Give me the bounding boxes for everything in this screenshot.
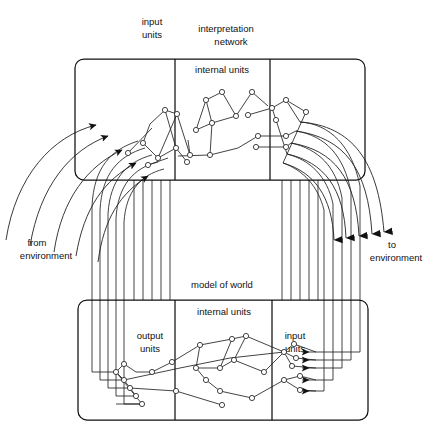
label-interpretation-network-line1: interpretation — [198, 23, 253, 34]
node-top-15 — [249, 89, 254, 94]
bottom-input-arrowheads — [302, 352, 316, 391]
node-bot-19 — [173, 388, 178, 393]
node-bot-11 — [169, 359, 174, 364]
top-box-outline — [75, 59, 365, 180]
top-header-labels: input units interpretation network — [142, 16, 254, 47]
node-bot-7 — [203, 377, 208, 382]
node-top-16 — [207, 152, 212, 157]
top-edge-group-12 — [248, 108, 272, 115]
label-from-environment-line2: environment — [20, 250, 73, 261]
node-bot-4 — [243, 333, 248, 338]
label-from-environment-line1: from — [28, 237, 47, 248]
label-output-units-bottom-line2: units — [140, 343, 160, 354]
env-in-2 — [30, 136, 108, 246]
node-top-11 — [219, 89, 224, 94]
node-bot-20 — [219, 402, 224, 407]
node-bot-27 — [297, 387, 302, 392]
node-top-18 — [269, 105, 274, 110]
loop-wire-r2 — [296, 131, 351, 360]
node-bot-9 — [261, 369, 266, 374]
node-top-2 — [174, 111, 179, 116]
top-network-edges — [128, 92, 306, 165]
node-top-10 — [203, 97, 208, 102]
node-top-3 — [155, 155, 160, 160]
node-bot-24 — [293, 355, 298, 360]
env-in-3 — [54, 150, 122, 252]
label-input-units-top-line2: units — [142, 29, 162, 40]
architecture-diagram: input units interpretation network — [0, 0, 436, 431]
bot-edge-8 — [124, 364, 152, 372]
label-model-of-world: model of world — [191, 279, 253, 290]
node-top-23 — [283, 133, 288, 138]
node-top-24 — [283, 144, 288, 149]
label-to-environment-line2: environment — [370, 252, 423, 263]
node-top-22 — [303, 109, 308, 114]
node-top-20 — [253, 144, 258, 149]
node-bot-2 — [197, 342, 202, 347]
label-input-units-top-line1: input — [142, 16, 163, 27]
interpretation-network-box: internal units — [75, 59, 365, 180]
node-top-6 — [140, 140, 145, 145]
node-bot-16 — [127, 385, 132, 390]
node-top-5 — [187, 152, 192, 157]
node-top-8 — [125, 150, 130, 155]
node-bot-26 — [297, 373, 302, 378]
top-edge-group-2 — [177, 114, 190, 155]
node-bot-25 — [289, 363, 294, 368]
node-bot-23 — [291, 341, 296, 346]
node-top-17 — [245, 112, 250, 117]
label-internal-units-top: internal units — [195, 64, 249, 75]
to-environment-curves — [283, 122, 384, 240]
node-bot-18 — [139, 401, 144, 406]
env-out-2 — [296, 131, 372, 234]
node-bot-14 — [113, 369, 118, 374]
environment-labels: from environment to environment — [20, 237, 423, 263]
bot-edge-12 — [124, 352, 284, 380]
label-output-units-bottom-line1: output — [137, 330, 164, 341]
env-in-1 — [6, 125, 96, 240]
bot-edge-6 — [246, 336, 284, 352]
top-network-nodes — [125, 89, 308, 167]
node-bot-5 — [217, 365, 222, 370]
node-top-14 — [193, 127, 198, 132]
top-edge-group-7 — [206, 92, 236, 123]
label-input-units-bottom-line1: input — [285, 330, 306, 341]
env-out-3 — [291, 143, 359, 236]
node-bot-15 — [121, 377, 126, 382]
top-edge-group-1 — [158, 110, 177, 158]
node-top-9 — [184, 159, 189, 164]
node-bot-13 — [121, 361, 126, 366]
node-bot-21 — [249, 395, 254, 400]
node-bot-6 — [231, 357, 236, 362]
node-top-4 — [173, 145, 178, 150]
label-to-environment-line1: to — [388, 239, 396, 250]
node-bot-8 — [217, 388, 222, 393]
label-interpretation-network-line2: network — [214, 36, 248, 47]
node-top-12 — [233, 113, 238, 118]
node-top-21 — [283, 97, 288, 102]
node-top-1 — [162, 107, 167, 112]
node-bot-1 — [193, 365, 198, 370]
node-top-7 — [145, 162, 150, 167]
top-edge-group-9 — [236, 92, 268, 116]
env-in-4 — [76, 163, 136, 256]
node-bot-12 — [149, 369, 154, 374]
node-bot-22 — [281, 377, 286, 382]
top-edge-group-11 — [210, 136, 258, 155]
node-top-13 — [209, 120, 214, 125]
node-top-19 — [255, 133, 260, 138]
node-top-25 — [273, 117, 278, 122]
top-edge-group-13 — [258, 131, 296, 136]
node-bot-10 — [281, 349, 286, 354]
label-internal-units-bottom: internal units — [197, 306, 251, 317]
node-bot-3 — [229, 336, 234, 341]
node-bot-17 — [133, 393, 138, 398]
